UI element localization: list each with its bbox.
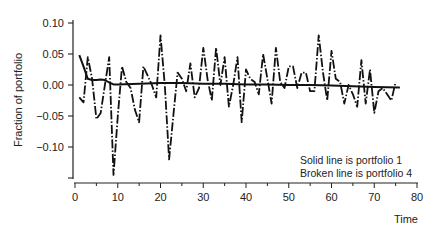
x-axis-label: Time [394,213,418,225]
x-tick-label: 0 [72,191,78,203]
y-tick-label: 0.05 [43,48,64,60]
y-tick-label: −0.05 [36,110,64,122]
line-chart: 0.100.050.00−0.05−0.10 01020304050607080… [0,0,440,231]
x-tick-label: 50 [283,191,295,203]
x-tick-label: 70 [368,191,380,203]
y-axis-label: Fraction of portfolio [12,53,24,147]
x-tick-label: 60 [325,191,337,203]
y-tick-label: 0.00 [43,79,64,91]
x-tick-label: 10 [112,191,124,203]
x-tick-label: 80 [411,191,423,203]
y-axis: 0.100.050.00−0.05−0.10 [36,17,73,179]
x-tick-label: 20 [154,191,166,203]
legend-broken-line: Broken line is portfolio 4 [300,167,412,179]
x-tick-label: 40 [240,191,252,203]
x-tick-label: 30 [197,191,209,203]
x-axis: 01020304050607080 [72,183,423,203]
y-tick-label: 0.10 [43,17,64,29]
legend-solid-line: Solid line is portfolio 1 [300,154,402,166]
y-tick-label: −0.10 [36,141,64,153]
